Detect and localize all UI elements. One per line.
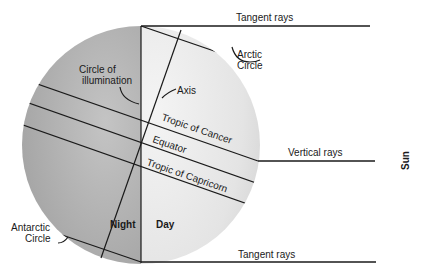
antarctic-circle-label-2: Circle [25,233,51,244]
circle-of-illumination-label-2: illumination [82,75,132,86]
arctic-circle-label-1: Arctic [237,49,262,60]
tangent-rays-bottom-label: Tangent rays [238,249,295,260]
tangent-rays-top-label: Tangent rays [236,12,293,23]
earth-sun-diagram: Tangent rays Tangent rays Vertical rays … [0,0,422,273]
antarctic-leader [58,237,68,243]
sun-label: Sun [400,151,411,170]
circle-of-illumination-label-1: Circle of [79,64,116,75]
arctic-circle-label-2: Circle [237,60,263,71]
day-label: Day [156,219,175,230]
night-label: Night [110,219,136,230]
vertical-rays-label: Vertical rays [288,147,342,158]
antarctic-circle-label-1: Antarctic [11,222,50,233]
axis-label: Axis [177,85,196,96]
